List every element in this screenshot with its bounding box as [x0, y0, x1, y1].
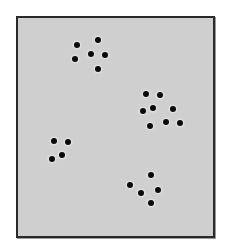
dot-cluster-top-left	[88, 51, 94, 57]
dot-cluster-top-left	[95, 66, 101, 72]
dot-cluster-bottom-right	[155, 187, 161, 193]
dot-cluster-top-left	[95, 37, 101, 43]
dot-cluster-mid-right	[140, 108, 146, 114]
dot-cluster-mid-left	[49, 156, 55, 162]
dot-cluster-bottom-right	[148, 172, 154, 178]
dot-cluster-top-left	[74, 42, 80, 48]
dot-cluster-mid-right	[163, 119, 169, 125]
dot-cluster-top-left	[72, 56, 78, 62]
dot-cluster-mid-right	[150, 105, 156, 111]
dot-cluster-mid-right	[143, 91, 149, 97]
dot-array-panel	[16, 16, 215, 238]
dot-cluster-mid-left	[65, 139, 71, 145]
dot-cluster-mid-right	[177, 120, 183, 126]
dot-cluster-bottom-right	[138, 190, 144, 196]
dot-cluster-mid-left	[59, 152, 65, 158]
dot-cluster-mid-right	[147, 123, 153, 129]
dot-cluster-mid-right	[170, 106, 176, 112]
dot-cluster-mid-right	[157, 92, 163, 98]
dot-cluster-top-left	[102, 52, 108, 58]
dot-cluster-mid-left	[51, 138, 57, 144]
dot-cluster-bottom-right	[127, 182, 133, 188]
dot-cluster-bottom-right	[148, 200, 154, 206]
